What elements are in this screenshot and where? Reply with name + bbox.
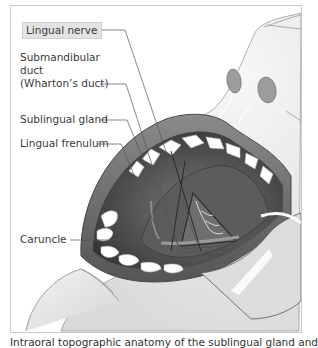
label-submandibular-duct-line1: Submandibular xyxy=(20,51,100,64)
label-lingual-frenulum: Lingual frenulum xyxy=(20,137,109,150)
label-sublingual-gland: Sublingual gland xyxy=(20,113,108,126)
label-caruncle: Caruncle xyxy=(20,233,67,246)
figure-caption: Intraoral topographic anatomy of the sub… xyxy=(10,336,318,348)
label-submandibular-duct-line3: (Wharton’s duct) xyxy=(20,77,109,90)
label-lingual-nerve: Lingual nerve xyxy=(22,22,102,39)
label-submandibular-duct-line2: duct xyxy=(20,64,43,77)
